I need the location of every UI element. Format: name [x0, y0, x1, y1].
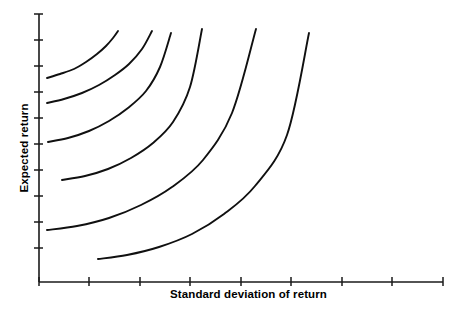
- x-axis-label: Standard deviation of return: [0, 288, 463, 300]
- indifference-curve-1: [47, 31, 118, 78]
- chart-figure: Expected return Standard deviation of re…: [0, 0, 463, 310]
- indifference-curve-3: [48, 33, 171, 142]
- plot-area: [0, 0, 463, 310]
- indifference-curves-group: [47, 29, 309, 259]
- indifference-curve-2: [47, 31, 152, 103]
- indifference-curve-6: [98, 33, 309, 259]
- y-axis-label: Expected return: [18, 78, 30, 218]
- indifference-curve-5: [47, 29, 256, 230]
- axes-group: [39, 14, 443, 282]
